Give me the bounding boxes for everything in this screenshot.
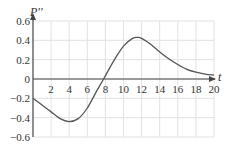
x-tick-label: 16 (172, 83, 184, 95)
x-tick-label: 14 (154, 83, 166, 95)
x-tick-label: 8 (103, 83, 109, 95)
x-tick-label: 4 (66, 83, 72, 95)
x-tick-label: 18 (190, 83, 202, 95)
y-tick-label: 0.6 (16, 15, 30, 27)
y-axis-label: P'' (29, 5, 43, 19)
y-tick-label: −0.2 (10, 92, 30, 104)
y-tick-label: −0.4 (10, 112, 30, 124)
y-tick-label: 0 (25, 73, 31, 85)
chart: 24681012141618200.60.40.20−0.2−0.4−0.6 t… (0, 0, 227, 150)
x-tick-label: 20 (209, 83, 221, 95)
y-tick-label: −0.6 (10, 131, 30, 143)
x-tick-label: 10 (118, 83, 130, 95)
x-tick-label: 2 (48, 83, 54, 95)
x-axis-label: t (218, 70, 222, 84)
y-tick-label: 0.4 (16, 34, 30, 46)
x-tick-label: 6 (85, 83, 91, 95)
x-tick-label: 12 (136, 83, 147, 95)
y-tick-label: 0.2 (16, 54, 30, 66)
